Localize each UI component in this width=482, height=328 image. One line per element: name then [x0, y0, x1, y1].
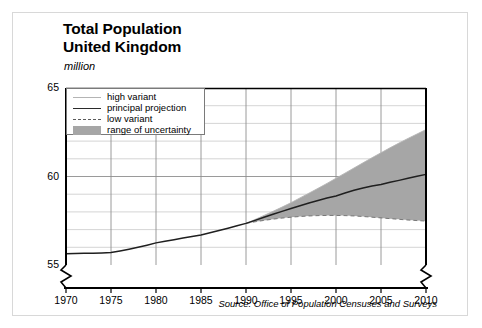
y-axis-tick-label: 65	[33, 81, 59, 93]
axis-break-left-icon	[61, 265, 71, 288]
y-axis-tick-label: 60	[33, 170, 59, 182]
legend-item-label: principal projection	[107, 102, 186, 113]
y-axis-tick-label: 55	[33, 258, 59, 270]
source-note: Source: Office of Population Censuses an…	[0, 298, 437, 309]
legend-item-label: range of uncertainty	[107, 124, 191, 135]
legend-item-label: high variant	[107, 91, 156, 102]
legend-item: range of uncertainty	[67, 125, 206, 136]
legend-swatch-icon	[73, 126, 101, 135]
plot-area	[0, 0, 482, 328]
legend-item-label: low variant	[107, 113, 152, 124]
chart-legend: high variantprincipal projectionlow vari…	[66, 88, 205, 135]
legend-swatch-icon	[73, 119, 101, 120]
chart-figure: Total Population United Kingdom million …	[0, 0, 482, 328]
axis-break-right-icon	[421, 265, 431, 288]
legend-swatch-icon	[73, 97, 101, 98]
legend-swatch-icon	[73, 108, 101, 109]
